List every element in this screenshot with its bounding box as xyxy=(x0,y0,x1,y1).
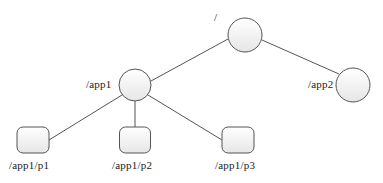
diagram-svg xyxy=(0,0,383,183)
node-p2 xyxy=(120,127,151,153)
node-app1 xyxy=(119,69,151,101)
edge-root-app2 xyxy=(262,40,339,74)
edge-root-app1 xyxy=(151,39,228,81)
label-p1: /app1/p1 xyxy=(9,159,49,171)
label-p2: /app1/p2 xyxy=(112,159,152,171)
label-root: / xyxy=(214,11,217,23)
label-app1: /app1 xyxy=(86,78,111,90)
node-app2 xyxy=(336,68,370,102)
node-p3 xyxy=(222,127,254,153)
edge-app1-p3 xyxy=(148,95,222,140)
tree-diagram: / /app1 /app2 /app1/p1 /app1/p2 /app1/p3 xyxy=(0,0,383,183)
label-p3: /app1/p3 xyxy=(215,159,255,171)
node-p1 xyxy=(17,127,49,153)
label-app2: /app2 xyxy=(308,78,333,90)
edge-app1-p1 xyxy=(49,95,122,140)
node-root xyxy=(228,18,262,52)
